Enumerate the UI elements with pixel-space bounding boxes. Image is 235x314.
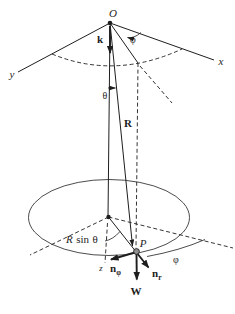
- reference-ray-right-dashed: [109, 217, 234, 248]
- x-axis-label: x: [218, 55, 224, 67]
- origin-label: O: [109, 7, 117, 19]
- R-vector-label: R: [124, 117, 133, 129]
- r-sin-theta-label: Rsinθ: [65, 233, 98, 245]
- z-axis-label: z: [98, 263, 103, 273]
- theta-label: θ: [103, 90, 108, 101]
- weight-vector-label: W: [131, 285, 142, 297]
- n-r-vector-label: nr: [152, 267, 162, 282]
- azimuth-extension-dashed: [140, 66, 172, 103]
- y-axis-line: [18, 23, 110, 72]
- horizontal-plane-arc-dashed: [52, 49, 182, 66]
- vertical-dashed-to-p: [136, 63, 138, 248]
- pendulum-figure: O y x k φ θ R Rsinθ P φ z nφ nr W: [0, 0, 235, 314]
- vertical-axis-line: [108, 26, 110, 217]
- point-p-label: P: [139, 237, 147, 249]
- x-axis-line: [110, 23, 214, 60]
- y-axis-label: y: [9, 68, 15, 80]
- spherical-pendulum-diagram: O y x k φ θ R Rsinθ P φ z nφ nr W: [0, 0, 235, 314]
- origin-dot: [108, 21, 113, 26]
- point-p-dot: [134, 249, 140, 255]
- n-phi-vector-label: nφ: [110, 262, 121, 277]
- phi-bottom-label: φ: [173, 254, 179, 265]
- cord-vector-R-arrow: [110, 23, 133, 246]
- phi-top-label: φ: [130, 34, 136, 45]
- k-vector-label: k: [97, 33, 104, 45]
- n-r-vector-arrow: [137, 253, 149, 268]
- z-axis-dashed: [105, 223, 108, 263]
